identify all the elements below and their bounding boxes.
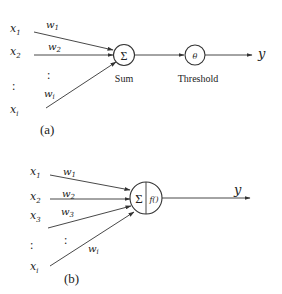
input-x2-label: x2: [10, 45, 21, 60]
input-ellipsis: :: [30, 238, 33, 252]
input-xi-label: xi: [10, 103, 18, 118]
weight-w1-label: w1: [63, 166, 76, 179]
weight-ellipsis: :: [64, 233, 67, 247]
input-x1-label: x1: [30, 165, 41, 180]
edge-x1-sum: [34, 32, 113, 50]
threshold-label: Threshold: [178, 73, 219, 84]
weight-ellipsis: :: [47, 68, 50, 82]
weight-w3-label: w3: [61, 206, 75, 219]
input-ellipsis: :: [12, 79, 15, 93]
caption-a: (a): [40, 122, 54, 137]
edge-xi-sum: [46, 62, 116, 108]
input-x1-label: x1: [10, 22, 21, 37]
theta-symbol: θ: [193, 52, 198, 61]
caption-b: (b): [64, 271, 79, 286]
weight-wi-label: wi: [44, 88, 55, 101]
weight-w1-label: w1: [46, 19, 59, 32]
input-xi-label: xi: [30, 260, 38, 275]
edge-xi-node: [50, 212, 134, 266]
output-y-label: y: [233, 182, 242, 197]
activation-function-label: f(): [148, 195, 158, 204]
diagram-b: x1 x2 x3 : xi w1 w2 w3 : wi Σ f() y (b): [30, 165, 250, 286]
output-y-label: y: [257, 46, 266, 61]
sigma-symbol: Σ: [121, 49, 128, 63]
sigma-symbol: Σ: [135, 191, 143, 206]
perceptron-figure: x1 x2 : xi w1 w2 : wi Σ Sum θ Threshold …: [0, 0, 282, 294]
diagram-a: x1 x2 : xi w1 w2 : wi Σ Sum θ Threshold …: [10, 19, 266, 137]
input-x2-label: x2: [30, 190, 41, 205]
input-x3-label: x3: [30, 209, 41, 224]
weight-wi-label: wi: [88, 243, 99, 256]
sum-label: Sum: [115, 73, 134, 84]
weight-w2-label: w2: [48, 41, 62, 54]
